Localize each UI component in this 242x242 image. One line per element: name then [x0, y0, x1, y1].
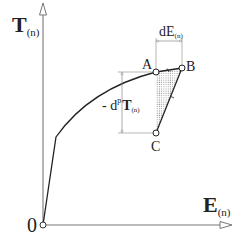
x-axis-label: E(n) — [203, 192, 231, 219]
origin-label: 0 — [27, 214, 37, 236]
y-axis — [40, 3, 47, 225]
y-axis-arrow-icon — [40, 3, 47, 15]
point-c-label: C — [151, 139, 160, 154]
point-c — [153, 130, 159, 136]
point-a — [153, 69, 159, 75]
dE-label: dE(n) — [159, 24, 183, 40]
x-axis-arrow-icon — [220, 222, 232, 229]
stress-strain-diagram: T(n) E(n) 0 A B C dE(n) - dpT(n) — [0, 0, 242, 242]
point-a-label: A — [142, 57, 153, 72]
x-axis — [43, 222, 232, 229]
dE-dimension — [156, 40, 182, 42]
point-b — [179, 65, 185, 71]
point-b-label: B — [186, 59, 195, 74]
origin-point — [40, 222, 46, 228]
dpT-label: - dpT(n) — [102, 96, 140, 114]
y-axis-label: T(n) — [12, 12, 40, 39]
